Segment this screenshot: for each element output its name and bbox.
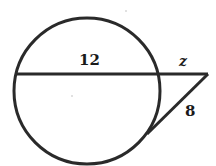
speck — [125, 10, 127, 12]
external-secant-label: z — [178, 53, 188, 69]
circle — [14, 18, 160, 164]
tangent-length-label: 8 — [185, 102, 195, 120]
tangent-line — [147, 74, 208, 134]
chord-length-label: 12 — [79, 51, 100, 69]
speck — [71, 95, 73, 97]
geometry-diagram: 12 z 8 — [0, 0, 216, 166]
